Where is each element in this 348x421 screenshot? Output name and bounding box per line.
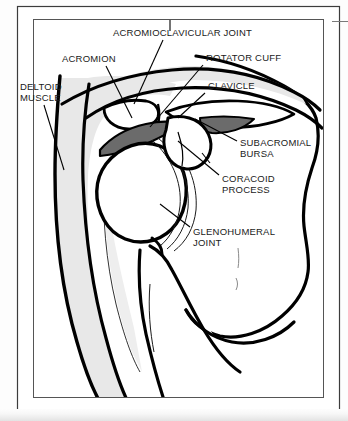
shoulder-anatomy-figure: ACROMIOCLAVICULAR JOINT ACROMION ROTATOR… [0, 0, 348, 421]
label-acromioclavicular-joint: ACROMIOCLAVICULAR JOINT [113, 27, 252, 38]
label-deltoid-muscle: DELTOID MUSCLE [20, 81, 65, 103]
scan-shadow-bottom [0, 409, 348, 421]
label-rotator-cuff: ROTATOR CUFF [206, 52, 281, 63]
label-clavicle: CLAVICLE [208, 80, 255, 91]
label-coracoid-process: CORACOID PROCESS [222, 173, 278, 195]
scanned-page: ACROMIOCLAVICULAR JOINT ACROMION ROTATOR… [0, 0, 348, 421]
label-acromion: ACROMION [62, 53, 116, 64]
